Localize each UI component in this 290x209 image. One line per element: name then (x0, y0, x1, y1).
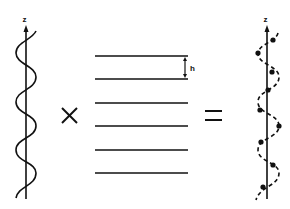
z-axis-label-left: z (23, 15, 27, 24)
lattice-point (269, 69, 274, 74)
times-operator (62, 108, 77, 123)
lattice-point (276, 123, 281, 128)
dimension-arrow-down-icon (183, 74, 187, 78)
lattice-point (270, 162, 275, 167)
equals-operator (205, 111, 222, 120)
parallel-planes-figure: h (95, 56, 195, 173)
lattice-point (258, 139, 263, 144)
z-axis-arrow-right-icon (265, 25, 270, 32)
lattice-point (255, 50, 260, 55)
spacing-label-h: h (190, 64, 195, 73)
dimension-arrow-up-icon (183, 57, 187, 61)
helix-lattice-diagram: z h z (0, 0, 290, 209)
lattice-point (257, 107, 262, 112)
lattice-point (260, 184, 265, 189)
discrete-helix-figure: z (255, 15, 281, 200)
z-axis-label-right: z (264, 15, 268, 24)
lattice-point (265, 87, 270, 92)
lattice-point (270, 37, 275, 42)
z-axis-arrow-left-icon (24, 25, 29, 32)
continuous-helix-figure: z (16, 15, 36, 199)
